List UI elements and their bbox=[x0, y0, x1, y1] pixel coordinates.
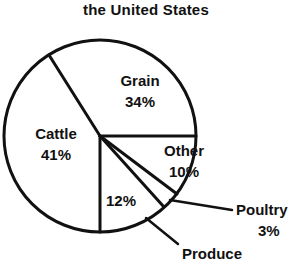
slice-label-other-name: Other bbox=[164, 142, 204, 159]
slice-label-produce-name: Produce bbox=[182, 245, 242, 262]
slice-label-grain-value: 34% bbox=[125, 93, 155, 110]
slice-label-poultry-value: 3% bbox=[258, 222, 280, 239]
slice-label-other-value: 10% bbox=[169, 163, 199, 180]
slice-label-cattle-value: 41% bbox=[41, 146, 71, 163]
poultry-leader-line bbox=[170, 200, 232, 210]
slice-label-poultry-name: Poultry bbox=[236, 201, 288, 218]
pie-chart-figure: the United States Grain 34% Cattle 41% O… bbox=[0, 0, 292, 269]
slice-label-grain-name: Grain bbox=[120, 72, 159, 89]
slice-label-produce-value: 12% bbox=[106, 192, 136, 209]
slice-label-cattle-name: Cattle bbox=[35, 125, 77, 142]
produce-leader-line bbox=[146, 218, 178, 244]
pie-chart-svg: Grain 34% Cattle 41% Other 10% 12% Produ… bbox=[0, 0, 292, 269]
